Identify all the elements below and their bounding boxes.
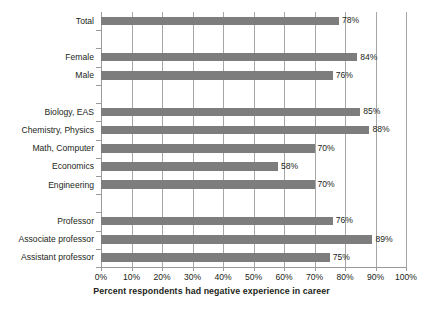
x-axis-tick-label: 20% <box>153 272 170 282</box>
bar <box>101 17 339 26</box>
bar-value-label: 88% <box>372 124 389 134</box>
y-axis-label: Math, Computer <box>32 143 94 153</box>
bar-chart: TotalFemaleMaleBiology, EASChemistry, Ph… <box>0 0 423 310</box>
bar <box>101 108 360 117</box>
bar-value-label: 58% <box>281 161 298 171</box>
y-axis-labels: TotalFemaleMaleBiology, EASChemistry, Ph… <box>0 12 98 267</box>
x-axis-tick <box>254 267 255 271</box>
gridline-20 <box>162 12 163 267</box>
y-axis-tick <box>96 176 101 177</box>
gridline-30 <box>193 12 194 267</box>
bar <box>101 126 369 135</box>
y-axis-label: Professor <box>57 216 94 226</box>
y-axis-label: Economics <box>52 161 94 171</box>
y-axis-label: Chemistry, Physics <box>22 125 94 135</box>
x-axis-tick-label: 60% <box>275 272 292 282</box>
y-axis-tick <box>96 158 101 159</box>
x-axis-tick <box>223 267 224 271</box>
y-axis-label: Female <box>65 52 94 62</box>
x-axis-tick <box>315 267 316 271</box>
bar-value-label: 85% <box>363 106 380 116</box>
y-axis-tick <box>96 67 101 68</box>
x-axis-tick <box>193 267 194 271</box>
y-axis-tick <box>96 194 101 195</box>
x-axis-tick <box>406 267 407 271</box>
gridline-90 <box>376 12 377 267</box>
x-axis-title: Percent respondents had negative experie… <box>0 286 423 296</box>
bar-value-label: 70% <box>318 179 335 189</box>
x-axis-tick-label: 80% <box>336 272 353 282</box>
y-axis-label: Biology, EAS <box>44 107 94 117</box>
y-axis-tick <box>96 231 101 232</box>
x-axis-tick <box>162 267 163 271</box>
y-axis-tick <box>96 212 101 213</box>
bar-value-label: 84% <box>360 52 377 62</box>
x-axis-tick-label: 10% <box>123 272 140 282</box>
gridline-70 <box>315 12 316 267</box>
gridline-50 <box>254 12 255 267</box>
bar <box>101 53 357 62</box>
bar <box>101 235 372 244</box>
y-axis-tick <box>96 48 101 49</box>
x-axis-tick-label: 70% <box>306 272 323 282</box>
x-axis-tick-label: 40% <box>214 272 231 282</box>
plot-area: 78%84%76%85%88%70%58%70%76%89%75% <box>101 12 406 267</box>
x-axis-tick <box>101 267 102 271</box>
x-axis-tick-label: 50% <box>245 272 262 282</box>
x-axis-tick <box>345 267 346 271</box>
bar <box>101 71 333 80</box>
y-axis-tick <box>96 30 101 31</box>
bar-value-label: 76% <box>336 215 353 225</box>
gridline-80 <box>345 12 346 267</box>
x-axis-tick-label: 30% <box>184 272 201 282</box>
bar-value-label: 76% <box>336 70 353 80</box>
y-axis-tick <box>96 103 101 104</box>
x-axis-tick-label: 90% <box>367 272 384 282</box>
y-axis-tick <box>96 249 101 250</box>
bar-value-label: 78% <box>342 15 359 25</box>
y-axis-tick <box>96 140 101 141</box>
gridline-60 <box>284 12 285 267</box>
bar <box>101 253 330 262</box>
x-axis-tick <box>284 267 285 271</box>
bar-value-label: 70% <box>318 143 335 153</box>
gridline-10 <box>132 12 133 267</box>
y-axis-label: Male <box>75 70 94 80</box>
bar <box>101 217 333 226</box>
y-axis-tick <box>96 85 101 86</box>
y-axis-label: Assistant professor <box>21 252 94 262</box>
x-axis-tick-label: 100% <box>395 272 417 282</box>
bar <box>101 180 315 189</box>
bar <box>101 162 278 171</box>
bar-value-label: 75% <box>333 252 350 262</box>
x-axis-tick-label: 0% <box>95 272 107 282</box>
gridline-40 <box>223 12 224 267</box>
y-axis-label: Associate professor <box>19 234 94 244</box>
bar-value-label: 89% <box>375 234 392 244</box>
bar <box>101 144 315 153</box>
y-axis-tick <box>96 121 101 122</box>
y-axis-label: Engineering <box>48 180 94 190</box>
y-axis-label: Total <box>76 16 94 26</box>
plot-right-border <box>406 12 407 267</box>
x-axis-tick <box>376 267 377 271</box>
x-axis-tick <box>132 267 133 271</box>
